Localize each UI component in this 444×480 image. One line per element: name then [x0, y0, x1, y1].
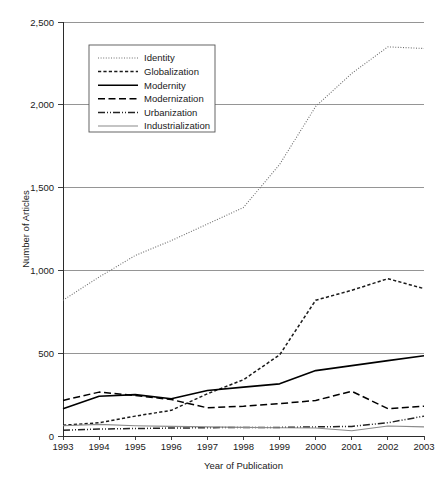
legend-label-industrialization: Industrialization: [144, 120, 210, 131]
x-tick-label: 1996: [161, 441, 182, 452]
chart-figure: 2,500 2,000 1,500 1,000 500 0 Number of …: [0, 0, 444, 480]
chart-legend: IdentityGlobalizationModernityModernizat…: [89, 45, 215, 132]
series-line-industrialization: [63, 424, 424, 430]
series-line-modernization: [63, 391, 424, 408]
x-tick-label: 1993: [52, 441, 73, 452]
x-tick-labels: 1993199419951996199719981999200020012002…: [52, 441, 434, 452]
line-chart: 2,500 2,000 1,500 1,000 500 0 Number of …: [0, 0, 444, 480]
y-tick-marks: [58, 22, 63, 436]
y-tick-label: 2,000: [30, 99, 54, 110]
y-tick-label: 1,500: [30, 182, 54, 193]
legend-label-modernization: Modernization: [144, 93, 204, 104]
x-tick-label: 1998: [233, 441, 254, 452]
x-tick-label: 1995: [125, 441, 146, 452]
y-tick-label: 0: [49, 431, 54, 442]
x-tick-label: 2000: [305, 441, 326, 452]
y-axis-title: Number of Articles: [20, 190, 31, 268]
x-tick-marks: [63, 436, 424, 440]
series-line-modernity: [63, 356, 424, 409]
x-tick-label: 1994: [89, 441, 110, 452]
legend-label-identity: Identity: [144, 52, 175, 63]
y-tick-label: 1,000: [30, 265, 54, 276]
legend-label-globalization: Globalization: [144, 66, 199, 77]
y-tick-label: 2,500: [30, 17, 54, 28]
legend-label-urbanization: Urbanization: [144, 107, 197, 118]
series-line-globalization: [63, 279, 424, 426]
y-tick-label: 500: [38, 348, 54, 359]
x-tick-label: 2002: [377, 441, 398, 452]
x-tick-label: 2001: [341, 441, 362, 452]
x-tick-label: 1997: [197, 441, 218, 452]
x-axis-title: Year of Publication: [204, 460, 283, 471]
legend-label-modernity: Modernity: [144, 80, 186, 91]
x-tick-label: 2003: [413, 441, 434, 452]
y-tick-labels: 2,500 2,000 1,500 1,000 500 0: [30, 17, 54, 442]
x-tick-label: 1999: [269, 441, 290, 452]
